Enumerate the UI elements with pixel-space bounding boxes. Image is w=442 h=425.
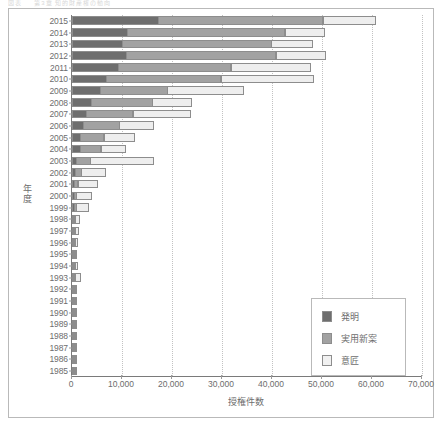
bar-segment[interactable] [76,203,89,212]
bar-segment[interactable] [221,75,314,84]
table-row[interactable]: 2003 [72,155,421,167]
bar-segment[interactable] [75,273,82,282]
stacked-bar[interactable] [72,28,325,37]
bar-segment[interactable] [75,262,78,271]
bar-segment[interactable] [285,28,325,37]
stacked-bar[interactable] [72,145,126,154]
bar-segment[interactable] [72,121,84,130]
bar-segment[interactable] [104,133,135,142]
bar-segment[interactable] [75,250,77,259]
table-row[interactable]: 2000 [72,190,421,202]
bar-segment[interactable] [231,63,311,72]
bar-segment[interactable] [72,75,107,84]
bar-segment[interactable] [119,121,154,130]
table-row[interactable]: 1992 [72,284,421,296]
bar-segment[interactable] [75,215,81,224]
bar-segment[interactable] [152,98,192,107]
table-row[interactable]: 1999 [72,202,421,214]
table-row[interactable]: 2010 [72,73,421,85]
stacked-bar[interactable] [72,157,154,166]
table-row[interactable]: 1997 [72,225,421,237]
bar-segment[interactable] [76,157,91,166]
bar-segment[interactable] [106,75,222,84]
stacked-bar[interactable] [72,16,376,25]
bar-segment[interactable] [75,343,77,352]
table-row[interactable]: 2004 [72,143,421,155]
stacked-bar[interactable] [72,273,81,282]
bar-segment[interactable] [133,110,191,119]
stacked-bar[interactable] [72,227,79,236]
stacked-bar[interactable] [72,110,191,119]
bar-segment[interactable] [276,51,326,60]
bar-segment[interactable] [78,180,99,189]
stacked-bar[interactable] [72,262,78,271]
bar-segment[interactable] [75,355,77,364]
legend-item[interactable]: 実用新案 [322,327,405,349]
bar-segment[interactable] [72,86,101,95]
stacked-bar[interactable] [72,192,92,201]
stacked-bar[interactable] [72,297,77,306]
stacked-bar[interactable] [72,133,135,142]
bar-segment[interactable] [158,16,323,25]
bar-segment[interactable] [72,28,128,37]
bar-segment[interactable] [76,192,92,201]
bar-segment[interactable] [126,51,276,60]
bar-segment[interactable] [127,28,285,37]
stacked-bar[interactable] [72,168,106,177]
stacked-bar[interactable] [72,285,77,294]
table-row[interactable]: 1993 [72,272,421,284]
table-row[interactable]: 2015 [72,15,421,27]
bar-segment[interactable] [81,168,106,177]
bar-segment[interactable] [72,63,119,72]
bar-segment[interactable] [75,308,77,317]
bar-segment[interactable] [75,367,77,376]
bar-segment[interactable] [75,320,77,329]
legend-item[interactable]: 発明 [322,305,405,327]
stacked-bar[interactable] [72,180,98,189]
table-row[interactable]: 2007 [72,108,421,120]
table-row[interactable]: 2012 [72,50,421,62]
table-row[interactable]: 1996 [72,237,421,249]
bar-segment[interactable] [72,110,87,119]
bar-segment[interactable] [75,297,77,306]
stacked-bar[interactable] [72,320,77,329]
bar-segment[interactable] [101,145,126,154]
legend-item[interactable]: 意匠 [322,349,405,371]
bar-segment[interactable] [72,51,127,60]
bar-segment[interactable] [86,110,134,119]
table-row[interactable]: 1998 [72,214,421,226]
stacked-bar[interactable] [72,308,77,317]
table-row[interactable]: 2011 [72,62,421,74]
stacked-bar[interactable] [72,40,313,49]
table-row[interactable]: 2009 [72,85,421,97]
stacked-bar[interactable] [72,250,77,259]
bar-segment[interactable] [75,227,80,236]
table-row[interactable]: 2008 [72,97,421,109]
bar-segment[interactable] [72,40,123,49]
table-row[interactable]: 1994 [72,260,421,272]
bar-segment[interactable] [323,16,376,25]
bar-segment[interactable] [80,145,101,154]
bar-segment[interactable] [83,121,120,130]
stacked-bar[interactable] [72,98,192,107]
bar-segment[interactable] [122,40,272,49]
bar-segment[interactable] [72,16,159,25]
stacked-bar[interactable] [72,51,326,60]
stacked-bar[interactable] [72,203,89,212]
stacked-bar[interactable] [72,343,77,352]
bar-segment[interactable] [75,238,78,247]
stacked-bar[interactable] [72,121,154,130]
stacked-bar[interactable] [72,238,78,247]
stacked-bar[interactable] [72,75,314,84]
bar-segment[interactable] [72,98,92,107]
stacked-bar[interactable] [72,332,77,341]
table-row[interactable]: 2001 [72,178,421,190]
stacked-bar[interactable] [72,367,77,376]
bar-segment[interactable] [91,98,153,107]
table-row[interactable]: 2002 [72,167,421,179]
bar-segment[interactable] [100,86,168,95]
stacked-bar[interactable] [72,63,311,72]
bar-segment[interactable] [75,285,78,294]
bar-segment[interactable] [118,63,232,72]
bar-segment[interactable] [271,40,313,49]
